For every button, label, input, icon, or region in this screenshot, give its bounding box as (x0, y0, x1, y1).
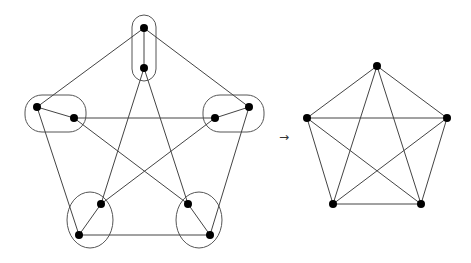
left-graph-edge (188, 204, 210, 235)
contraction-group-outline (25, 95, 86, 132)
k5-vertex (443, 114, 451, 122)
k5-edge (377, 66, 447, 118)
left-graph-edge (101, 68, 144, 204)
right-graph-edges (307, 66, 447, 204)
k5-vertex (329, 200, 337, 208)
k5-vertex (373, 62, 381, 70)
left-graph-edge (210, 107, 249, 235)
left-graph-vertex (245, 103, 253, 111)
k5-edge (307, 118, 333, 204)
left-graph-edge (74, 118, 188, 204)
contraction-group-outline (203, 95, 264, 132)
left-graph-edge (144, 28, 249, 107)
k5-edge (333, 66, 377, 204)
left-graph-vertex (206, 231, 214, 239)
left-graph-edge (37, 28, 144, 107)
left-graph-vertex (75, 231, 83, 239)
left-graph-edge (101, 118, 215, 204)
graph-contraction-figure: → (0, 0, 471, 263)
k5-edge (377, 66, 421, 204)
k5-edge (421, 118, 447, 204)
right-graph-nodes (303, 62, 451, 208)
left-graph-vertex (140, 24, 148, 32)
left-graph-edge (79, 204, 101, 235)
left-graph-vertex (97, 200, 105, 208)
arrow-icon: → (279, 130, 289, 144)
left-graph-vertex (184, 200, 192, 208)
left-graph-edge (37, 107, 79, 235)
left-graph-vertex (70, 114, 78, 122)
figure-canvas: → (0, 0, 471, 263)
k5-vertex (417, 200, 425, 208)
left-graph-edge (215, 107, 249, 118)
k5-vertex (303, 114, 311, 122)
k5-edge (333, 118, 447, 204)
k5-edge (307, 118, 421, 204)
left-graph-vertex (211, 114, 219, 122)
left-graph-vertex (140, 64, 148, 72)
left-graph-vertex (33, 103, 41, 111)
left-graph-edge (37, 107, 74, 118)
left-graph-edge (144, 68, 188, 204)
k5-edge (307, 66, 377, 118)
